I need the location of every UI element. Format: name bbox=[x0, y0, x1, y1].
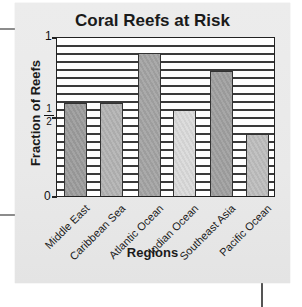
bar-atlantic-ocean bbox=[138, 53, 161, 196]
bar-pacific-ocean bbox=[246, 134, 269, 196]
bar-caribbean-sea bbox=[100, 103, 123, 197]
decorative-line-bottom-right bbox=[261, 283, 263, 307]
decorative-line-top-left bbox=[0, 28, 15, 30]
gridline bbox=[57, 157, 274, 159]
y-tick-half-numerator: 1 bbox=[44, 104, 54, 114]
gridline bbox=[57, 53, 274, 55]
gridline bbox=[57, 189, 274, 191]
gridline bbox=[57, 45, 274, 47]
bar-southeast-asia bbox=[210, 71, 233, 196]
plot-area bbox=[56, 37, 275, 197]
bar-middle-east bbox=[64, 103, 87, 197]
gridline bbox=[57, 149, 274, 151]
gridline bbox=[57, 61, 274, 63]
gridline bbox=[57, 165, 274, 167]
y-tick-label-0: 0 bbox=[44, 189, 51, 203]
y-tick-label-half: 1 2 bbox=[44, 104, 54, 127]
x-axis-label: Regions bbox=[15, 245, 290, 260]
gridline bbox=[57, 109, 274, 111]
gridline bbox=[57, 125, 274, 127]
gridline bbox=[57, 101, 274, 103]
gridline bbox=[57, 181, 274, 183]
gridline bbox=[57, 133, 274, 135]
gridline bbox=[57, 141, 274, 143]
y-tick-label-1: 1 bbox=[45, 29, 52, 43]
gridline bbox=[57, 85, 274, 87]
gridline bbox=[57, 93, 274, 95]
decorative-line-bottom-left bbox=[0, 214, 15, 216]
gridline bbox=[57, 69, 274, 71]
gridline bbox=[57, 173, 274, 175]
bar-indian-ocean bbox=[173, 110, 196, 196]
gridline bbox=[57, 117, 274, 119]
y-tick-half-denominator: 2 bbox=[44, 117, 54, 127]
chart-title: Coral Reefs at Risk bbox=[15, 11, 290, 31]
y-axis-label: Fraction of Reefs bbox=[28, 60, 43, 166]
gridline bbox=[57, 77, 274, 79]
